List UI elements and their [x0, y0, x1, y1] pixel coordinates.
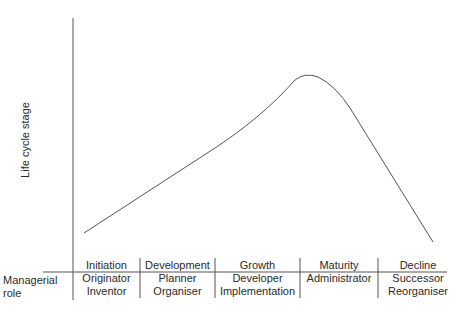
- life-cycle-curve: [84, 75, 433, 242]
- stage-decline: Decline Successor Reorganiser: [378, 259, 458, 298]
- stage-development: Development Planner Organiser: [140, 259, 215, 298]
- stage-growth: Growth Developer Implementation: [215, 259, 300, 298]
- stage-initiation: Initiation Originator Inventor: [73, 259, 140, 298]
- y-axis-label: Life cycle stage: [19, 102, 31, 178]
- row-label: Managerial role: [3, 274, 57, 300]
- stage-maturity: Maturity Administrator: [300, 259, 378, 285]
